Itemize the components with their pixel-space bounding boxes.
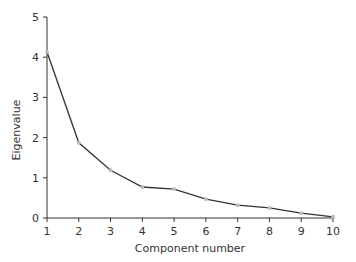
- data-point: [267, 206, 271, 210]
- data-point: [172, 187, 176, 191]
- data-point: [77, 141, 81, 145]
- y-tick-label: 4: [32, 51, 39, 64]
- x-tick-label: 7: [234, 225, 241, 238]
- axes: [47, 17, 334, 218]
- data-point: [204, 197, 208, 201]
- x-tick-label: 3: [107, 225, 114, 238]
- x-tick-label: 2: [75, 225, 82, 238]
- eigenvalue-line: [47, 52, 333, 217]
- x-axis-ticks: 12345678910: [44, 218, 341, 238]
- x-tick-label: 8: [266, 225, 273, 238]
- y-tick-label: 1: [32, 172, 39, 185]
- x-tick-label: 10: [326, 225, 340, 238]
- x-tick-label: 6: [202, 225, 209, 238]
- scree-plot: 012345 12345678910 Component number Eige…: [0, 0, 356, 262]
- data-point: [140, 185, 144, 189]
- x-tick-label: 1: [44, 225, 51, 238]
- x-tick-label: 9: [298, 225, 305, 238]
- data-point: [236, 203, 240, 207]
- data-point: [109, 168, 113, 172]
- y-tick-label: 5: [32, 11, 39, 24]
- y-axis-ticks: 012345: [32, 11, 47, 225]
- x-axis-title: Component number: [135, 242, 246, 255]
- data-point: [45, 50, 49, 54]
- data-point: [299, 211, 303, 215]
- y-tick-label: 2: [32, 132, 39, 145]
- x-tick-label: 4: [139, 225, 146, 238]
- y-tick-label: 0: [32, 212, 39, 225]
- x-tick-label: 5: [171, 225, 178, 238]
- y-tick-label: 3: [32, 91, 39, 104]
- y-axis-title: Eigenvalue: [10, 99, 23, 160]
- data-point: [331, 215, 335, 219]
